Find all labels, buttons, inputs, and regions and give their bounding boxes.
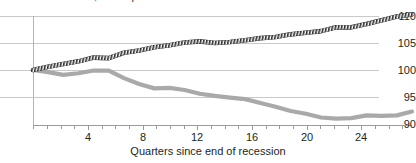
chart-figure: 1991 and 2001 recessions; recent expansi… <box>0 0 416 163</box>
series-line-upper <box>33 14 412 70</box>
series-line-lower <box>33 70 412 119</box>
series-layer <box>0 0 416 163</box>
